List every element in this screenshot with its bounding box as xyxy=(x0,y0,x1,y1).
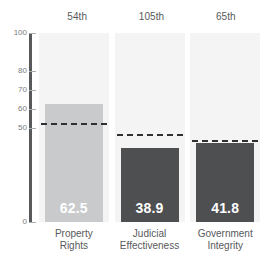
bar-government-integrity[interactable]: 41.8 xyxy=(196,143,254,222)
world-average-line xyxy=(41,123,107,125)
bar-slot: 62.5 xyxy=(36,33,112,222)
y-axis-tick: 100 xyxy=(0,33,36,34)
world-average-line xyxy=(192,140,258,142)
bar-value-label: 62.5 xyxy=(45,200,103,216)
y-axis-tick: 50 xyxy=(0,128,36,129)
bar-value-label: 38.9 xyxy=(121,200,179,216)
rank-label-row: 54th 105th 65th xyxy=(40,8,263,26)
bar-value-label: 41.8 xyxy=(196,200,254,216)
rank-label: 54th xyxy=(40,8,114,26)
y-axis-tick-label: 50 xyxy=(18,122,27,133)
bar-slot: 41.8 xyxy=(187,33,263,222)
category-label-line: Rights xyxy=(36,240,112,252)
y-axis-tick-mark xyxy=(29,222,36,223)
y-axis-tick-label: 100 xyxy=(14,27,27,38)
y-axis-tick-mark xyxy=(29,128,36,129)
world-average-line xyxy=(117,134,183,136)
category-label-government-integrity: Government Integrity xyxy=(187,226,263,260)
y-axis-tick-label: 0 xyxy=(23,216,27,227)
bar-property-rights[interactable]: 62.5 xyxy=(45,104,103,222)
bar-slot: 38.9 xyxy=(112,33,188,222)
y-axis-tick: 70 xyxy=(0,90,36,91)
plot-area: 62.5 38.9 41.8 xyxy=(36,33,263,222)
category-label-line: Effectiveness xyxy=(112,240,188,252)
y-axis-tick: 60 xyxy=(0,109,36,110)
bar-chart: 54th 105th 65th 050607080100 62.5 38.9 xyxy=(0,0,263,262)
bar-group: 62.5 38.9 41.8 xyxy=(36,33,263,222)
rank-label: 65th xyxy=(189,8,263,26)
y-axis-tick-mark xyxy=(29,33,36,34)
category-label-line: Integrity xyxy=(187,240,263,252)
y-axis-tick-mark xyxy=(29,71,36,72)
category-label-row: Property Rights Judicial Effectiveness G… xyxy=(36,226,263,260)
y-axis-tick-label: 70 xyxy=(18,84,27,95)
category-label-property-rights: Property Rights xyxy=(36,226,112,260)
category-label-judicial-effectiveness: Judicial Effectiveness xyxy=(112,226,188,260)
bar-judicial-effectiveness[interactable]: 38.9 xyxy=(121,148,179,222)
y-axis-tick: 0 xyxy=(0,222,36,223)
y-axis-tick: 80 xyxy=(0,71,36,72)
category-label-line: Government xyxy=(187,228,263,240)
category-label-line: Judicial xyxy=(112,228,188,240)
y-axis-tick-label: 80 xyxy=(18,65,27,76)
category-label-line: Property xyxy=(36,228,112,240)
y-axis-tick-label: 60 xyxy=(18,103,27,114)
y-axis-tick-mark xyxy=(29,90,36,91)
y-axis-tick-mark xyxy=(29,109,36,110)
rank-label: 105th xyxy=(114,8,188,26)
